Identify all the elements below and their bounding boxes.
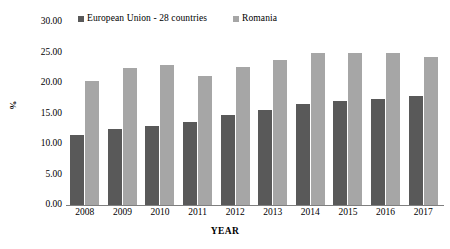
x-axis-tick-label: 2015 <box>329 208 367 218</box>
bar-romania <box>311 53 325 206</box>
bar-romania <box>386 53 400 206</box>
bar-european-union <box>145 126 159 205</box>
bar-group <box>104 22 142 205</box>
y-axis-tick-label: 30.00 <box>41 17 62 27</box>
y-axis-tick-label: 15.00 <box>41 109 62 119</box>
bar-group <box>179 22 217 205</box>
x-axis-title: YEAR <box>0 226 450 236</box>
x-axis-ticks: 2008200920102011201220132014201520162017 <box>66 208 442 218</box>
bar-romania <box>198 76 212 205</box>
bar-european-union <box>70 135 84 205</box>
bar-romania <box>123 68 137 205</box>
bar-group <box>254 22 292 205</box>
bar-european-union <box>296 104 310 205</box>
bar-romania <box>85 81 99 205</box>
x-axis-tick-label: 2012 <box>216 208 254 218</box>
bar-group <box>141 22 179 205</box>
y-axis-tick-label: 25.00 <box>41 48 62 58</box>
bar-romania <box>424 57 438 205</box>
x-axis-tick-label: 2008 <box>66 208 104 218</box>
x-axis-tick-label: 2010 <box>141 208 179 218</box>
x-axis-tick-label: 2011 <box>179 208 217 218</box>
bar-european-union <box>221 115 235 205</box>
plot-area <box>66 22 442 205</box>
y-axis-title: % <box>8 100 18 109</box>
x-axis-tick-label: 2013 <box>254 208 292 218</box>
bar-european-union <box>183 122 197 205</box>
bar-european-union <box>409 96 423 205</box>
bar-group <box>367 22 405 205</box>
bar-romania <box>236 67 250 205</box>
bar-chart: European Union - 28 countries Romania % … <box>0 0 450 249</box>
bar-group <box>329 22 367 205</box>
y-axis-tick-label: 0.00 <box>45 200 62 210</box>
bar-group <box>404 22 442 205</box>
bar-group <box>216 22 254 205</box>
legend-swatch-icon-romania <box>233 16 239 22</box>
y-axis-tick-label: 20.00 <box>41 78 62 88</box>
x-axis-tick-label: 2017 <box>404 208 442 218</box>
bar-romania <box>273 60 287 205</box>
x-axis-tick-label: 2014 <box>292 208 330 218</box>
bar-european-union <box>108 129 122 205</box>
y-axis-ticks: 30.0025.0020.0015.0010.005.000.00 <box>26 0 62 249</box>
bar-romania <box>160 65 174 205</box>
y-axis-tick-label: 5.00 <box>45 170 62 180</box>
legend-swatch-icon-european-union <box>78 16 84 22</box>
y-axis-tick-label: 10.00 <box>41 139 62 149</box>
x-axis-tick-label: 2009 <box>104 208 142 218</box>
x-axis-line <box>66 205 444 206</box>
bar-european-union <box>333 101 347 205</box>
x-axis-tick-label: 2016 <box>367 208 405 218</box>
bar-groups <box>66 22 442 205</box>
bar-european-union <box>258 110 272 205</box>
bar-european-union <box>371 99 385 205</box>
bar-group <box>66 22 104 205</box>
bar-romania <box>348 53 362 206</box>
bar-group <box>292 22 330 205</box>
